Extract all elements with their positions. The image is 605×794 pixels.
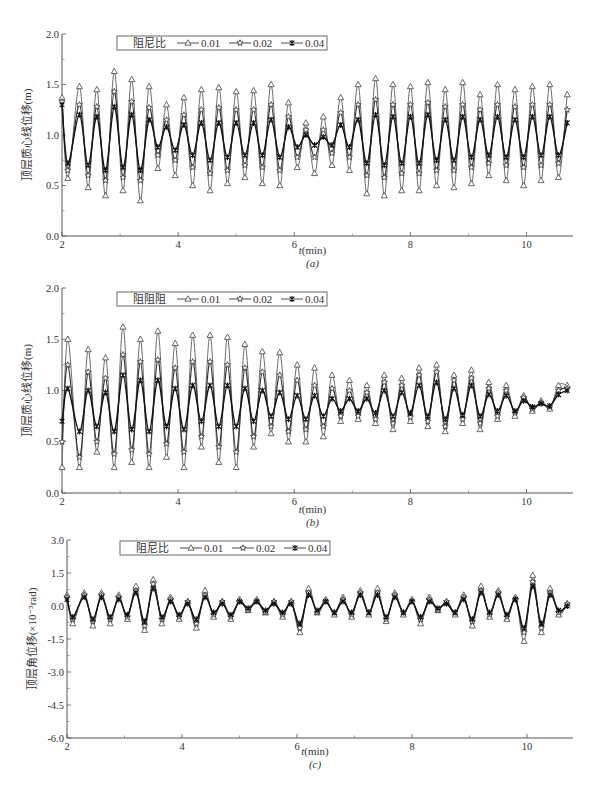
star-marker-icon	[155, 357, 161, 363]
triangle-marker-icon	[320, 433, 326, 438]
y-tick-label: 1.5	[51, 568, 64, 579]
star-marker-icon	[435, 607, 441, 613]
x-tick-label: 4	[179, 741, 185, 752]
star-marker-icon	[137, 359, 143, 365]
triangle-marker-icon	[312, 170, 318, 175]
triangle-marker-icon	[355, 81, 361, 86]
triangle-marker-icon	[564, 382, 570, 387]
star-marker-icon	[399, 382, 405, 388]
star-marker-icon	[185, 598, 191, 604]
triangle-marker-icon	[76, 464, 82, 469]
legend-label: 0.02	[253, 37, 272, 49]
star-marker-icon	[259, 369, 265, 375]
asterisk-marker-icon	[70, 614, 75, 620]
star-marker-icon	[487, 612, 493, 618]
triangle-marker-icon	[390, 81, 396, 86]
star-marker-icon	[504, 614, 510, 620]
star-marker-icon	[468, 375, 474, 381]
triangle-marker-icon	[116, 592, 122, 597]
asterisk-marker-icon	[142, 618, 147, 624]
series-line	[62, 71, 567, 200]
star-marker-icon	[338, 413, 344, 419]
y-tick-label: -4.5	[47, 700, 64, 711]
triangle-marker-icon	[190, 332, 196, 337]
triangle-marker-icon	[181, 94, 187, 99]
triangle-marker-icon	[357, 587, 363, 592]
triangle-marker-icon	[349, 614, 355, 619]
asterisk-marker-icon	[496, 592, 501, 598]
star-marker-icon	[495, 590, 501, 596]
asterisk-marker-icon	[159, 614, 164, 620]
star-marker-icon	[564, 601, 570, 607]
triangle-marker-icon	[155, 328, 161, 333]
asterisk-marker-icon	[443, 117, 448, 123]
x-tick-label: 2	[59, 496, 64, 507]
axes-b: 0.00.51.01.52.0246810t(min)(b)顶层质心线位移(m)	[20, 283, 573, 530]
triangle-marker-icon	[323, 596, 329, 601]
asterisk-marker-icon	[263, 607, 268, 613]
triangle-marker-icon	[451, 372, 457, 377]
triangle-marker-icon	[392, 590, 398, 595]
star-marker-icon	[374, 590, 380, 596]
asterisk-marker-icon	[303, 416, 308, 422]
asterisk-marker-icon	[410, 599, 415, 605]
asterisk-marker-icon	[425, 413, 430, 419]
triangle-marker-icon	[185, 598, 191, 603]
asterisk-marker-icon	[225, 382, 230, 388]
star-marker-icon	[426, 596, 432, 602]
triangle-marker-icon	[495, 416, 501, 421]
triangle-marker-icon	[159, 620, 165, 625]
triangle-marker-icon	[564, 601, 570, 606]
star-marker-icon	[400, 609, 406, 615]
asterisk-marker-icon	[332, 610, 337, 616]
asterisk-marker-icon	[530, 583, 535, 589]
asterisk-marker-icon	[565, 388, 570, 394]
asterisk-marker-icon	[185, 601, 190, 607]
triangle-marker-icon	[338, 418, 344, 423]
asterisk-marker-icon	[90, 616, 95, 622]
triangle-marker-icon	[216, 84, 222, 89]
triangle-marker-icon	[312, 365, 318, 370]
y-tick-label: 1.5	[46, 334, 59, 345]
triangle-marker-icon	[103, 192, 109, 197]
triangle-marker-icon	[364, 190, 370, 195]
asterisk-marker-icon	[216, 120, 221, 126]
asterisk-marker-icon	[444, 601, 449, 607]
x-axis-label: t(min)	[299, 244, 327, 257]
triangle-marker-icon	[142, 627, 148, 632]
legend-box	[117, 292, 327, 306]
triangle-marker-icon	[137, 336, 143, 341]
asterisk-marker-icon	[539, 621, 544, 627]
asterisk-marker-icon	[460, 114, 465, 120]
asterisk-icon	[290, 296, 295, 302]
star-marker-icon	[381, 379, 387, 385]
star-marker-icon	[383, 616, 389, 622]
triangle-marker-icon	[65, 175, 71, 180]
triangle-marker-icon	[251, 444, 257, 449]
asterisk-marker-icon	[164, 423, 169, 429]
triangle-marker-icon	[409, 596, 415, 601]
triangle-marker-icon	[133, 583, 139, 588]
star-marker-icon	[452, 609, 458, 615]
x-tick-label: 6	[294, 741, 299, 752]
star-marker-icon	[442, 423, 448, 429]
triangle-marker-icon	[193, 625, 199, 630]
asterisk-marker-icon	[199, 418, 204, 424]
legend-label: 0.01	[201, 293, 220, 305]
asterisk-marker-icon	[155, 377, 160, 383]
triangle-marker-icon	[331, 612, 337, 617]
asterisk-marker-icon	[417, 382, 422, 388]
star-marker-icon	[486, 385, 492, 391]
triangle-marker-icon	[254, 596, 260, 601]
triangle-marker-icon	[529, 83, 535, 88]
triangle-marker-icon	[434, 182, 440, 187]
star-marker-icon	[366, 609, 372, 615]
triangle-marker-icon	[245, 607, 251, 612]
triangle-marker-icon	[107, 620, 113, 625]
triangle-marker-icon	[94, 86, 100, 91]
triangle-marker-icon	[237, 596, 243, 601]
asterisk-marker-icon	[289, 601, 294, 607]
panel-caption: (b)	[306, 516, 319, 529]
y-tick-label: 1.0	[46, 385, 59, 396]
y-tick-label: 1.0	[46, 130, 59, 141]
